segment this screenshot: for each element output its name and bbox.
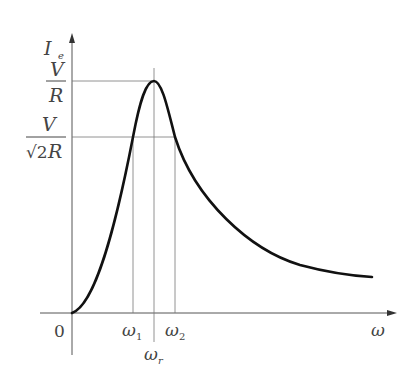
peak-label-numerator: V (50, 58, 66, 80)
x-axis-label: ω (371, 320, 385, 340)
resonance-diagram: I e V R V √2 R 0 ω 1 ω 2 ω r ω (0, 0, 417, 381)
half-power-label-sqrt: √2 (26, 142, 48, 162)
omega-2-subscript: 2 (179, 331, 185, 342)
omega-2-label: ω (165, 320, 179, 340)
half-power-label-numerator: V (42, 113, 58, 135)
omega-1-subscript: 1 (136, 331, 142, 342)
x-axis-arrow-icon (387, 310, 397, 316)
y-axis-arrow-icon (69, 33, 75, 43)
omega-r-subscript: r (158, 355, 164, 366)
peak-label-denominator: R (48, 84, 63, 106)
omega-1-label: ω (122, 320, 136, 340)
y-axis-label: I (43, 37, 52, 59)
origin-label: 0 (54, 321, 65, 341)
omega-r-label: ω (144, 344, 158, 364)
resonance-curve (72, 81, 372, 313)
half-power-label-denominator: R (47, 140, 62, 162)
